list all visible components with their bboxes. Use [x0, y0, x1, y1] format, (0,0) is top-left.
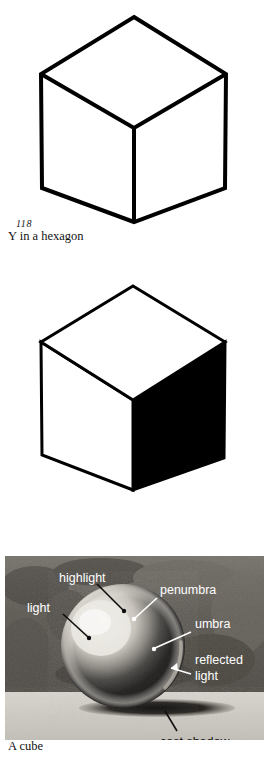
caption-number: 118	[16, 218, 84, 229]
highlight-core	[79, 609, 111, 635]
figure-119: 119 A cube	[0, 255, 264, 515]
label-reflected-light: light	[195, 669, 218, 683]
sphere-photo-graphic: highlight light penumbra umbra reflected…	[5, 556, 264, 740]
shaded-cube-drawing	[0, 255, 264, 515]
caption-118: 118 Y in a hexagon	[8, 218, 84, 243]
light-leader-dot	[87, 636, 91, 640]
label-reflected: reflected	[195, 653, 243, 667]
sphere-photograph: highlight light penumbra umbra reflected…	[5, 556, 264, 740]
figure-118: 118 Y in a hexagon	[0, 0, 264, 250]
label-light: light	[27, 601, 50, 615]
figure-120: highlight light penumbra umbra reflected…	[0, 545, 264, 764]
label-penumbra: penumbra	[160, 583, 216, 597]
penumbra-leader-dot	[132, 617, 136, 621]
umbra-leader-dot	[152, 647, 156, 651]
caption-label: Y in a hexagon	[8, 229, 84, 243]
document-page: 118 Y in a hexagon 119 A cube	[0, 0, 264, 764]
label-highlight: highlight	[59, 571, 106, 585]
hexagon-cube-drawing	[0, 0, 264, 250]
label-umbra: umbra	[195, 617, 230, 631]
highlight-leader-dot	[122, 609, 126, 613]
label-cast-shadow: cast shadow	[160, 735, 230, 740]
